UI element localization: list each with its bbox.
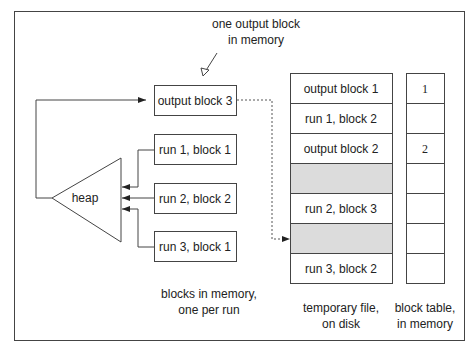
heap-label: heap (72, 191, 99, 205)
block-table-cell (407, 224, 445, 254)
heap: heap (52, 158, 121, 242)
memory-blocks: output block 3 run 1, block 1 run 2, blo… (155, 86, 237, 262)
temp-file: output block 1 run 1, block 2 output blo… (291, 74, 393, 284)
block-table-caption-line1: block table, (395, 301, 456, 315)
block-table-cell (407, 254, 445, 284)
annotation-pointer-arrowhead-icon (201, 68, 209, 76)
annotation-line2: in memory (228, 33, 284, 47)
memory-block-run2-label: run 2, block 2 (159, 192, 231, 206)
external-merge-sort-diagram: one output block in memory heap output b… (0, 0, 474, 350)
temp-file-row-label: run 1, block 2 (305, 112, 377, 126)
memory-caption-line2: one per run (178, 303, 239, 317)
block-table-caption-line2: in memory (397, 317, 453, 331)
temp-file-row-label: run 3, block 2 (305, 262, 377, 276)
memory-block-output-label: output block 3 (158, 94, 233, 108)
temp-file-caption-line2: on disk (322, 317, 361, 331)
block-table: 1 2 (407, 74, 445, 284)
output-write-arrowhead-icon (282, 236, 290, 242)
memory-block-run1-label: run 1, block 1 (159, 143, 231, 157)
temp-file-row-label: output block 1 (304, 82, 379, 96)
temp-file-caption-line1: temporary file, (303, 301, 379, 315)
block-table-cell-value: 2 (422, 142, 428, 156)
annotation: one output block in memory (201, 17, 301, 76)
run3-to-heap-arrow (122, 209, 154, 247)
block-table-cell (407, 164, 445, 194)
annotation-line1: one output block (212, 17, 301, 31)
temp-file-row-empty (291, 164, 393, 194)
temp-file-row-label: run 2, block 3 (305, 202, 377, 216)
block-table-cell (407, 194, 445, 224)
memory-caption-line1: blocks in memory, (161, 287, 257, 301)
run1-to-heap-arrow (122, 150, 154, 187)
output-write-dashed-line (237, 100, 286, 239)
temp-file-row-label: output block 2 (304, 142, 379, 156)
block-table-cell-value: 1 (422, 82, 428, 96)
block-table-cell (407, 104, 445, 134)
temp-file-row-empty (291, 224, 393, 254)
memory-block-run3-label: run 3, block 1 (159, 240, 231, 254)
